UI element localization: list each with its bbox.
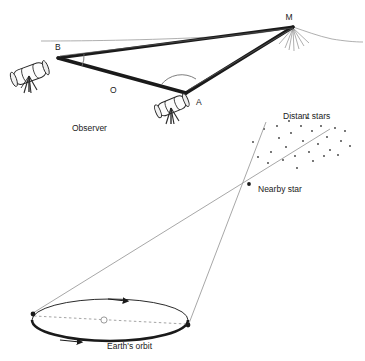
nearby-star-marker: [247, 182, 251, 186]
earth-orbit: [31, 299, 191, 342]
label-nearby-star: Nearby star: [258, 184, 302, 194]
label-distant-stars: Distant stars: [283, 111, 330, 121]
telescope-at-b: [9, 60, 51, 93]
label-baseline-o: O: [110, 85, 117, 95]
label-point-m: M: [285, 12, 292, 22]
label-point-a: A: [196, 97, 202, 107]
angle-arc-at-a: [161, 75, 196, 85]
telescope-at-a: [153, 93, 190, 124]
earth-position-left: [31, 312, 36, 317]
triangulation-triangle: [58, 27, 293, 93]
parallax-triangulation-figure: M B A O Observer Distant stars Nearby st…: [0, 0, 365, 361]
label-observer: Observer: [72, 123, 107, 133]
parallax-sight-lines: [33, 122, 330, 326]
label-earths-orbit: Earth's orbit: [107, 341, 153, 351]
distant-star-field: [252, 117, 351, 169]
figure-canvas: M B A O Observer Distant stars Nearby st…: [0, 0, 365, 361]
earth-position-right: [186, 323, 191, 328]
label-point-b: B: [55, 42, 61, 52]
sun-marker: [101, 317, 107, 323]
